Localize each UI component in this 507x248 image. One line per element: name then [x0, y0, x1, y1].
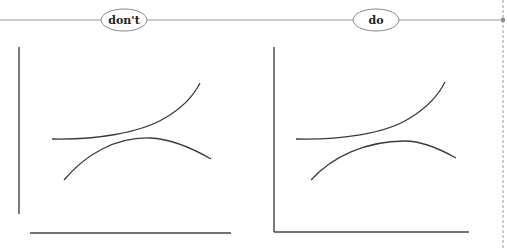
label-dont: don't	[101, 9, 147, 31]
chart-dont-upper-curve	[52, 83, 200, 139]
chart-do	[274, 47, 469, 232]
chart-do-lower-curve	[311, 141, 456, 180]
chart-dont	[19, 47, 231, 233]
label-do-text: do	[368, 14, 383, 27]
label-dont-text: don't	[108, 14, 140, 27]
chart-do-upper-curve	[296, 82, 445, 139]
diagram-canvas: don't do	[0, 0, 507, 248]
label-do: do	[353, 9, 399, 31]
chart-dont-lower-curve	[64, 138, 211, 180]
